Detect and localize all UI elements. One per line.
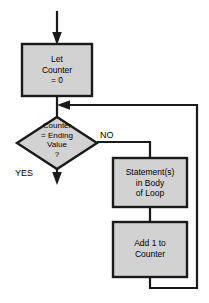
edge-test-yes [52,168,62,185]
edge-entry [52,11,62,45]
node-body-shape [113,158,187,207]
edge-label-no: NO [100,130,114,140]
node-increment-shape [113,222,187,277]
edge-label-yes: YES [15,168,33,178]
node-test-shape [17,117,97,169]
flowchart-canvas: Let Counter = 0 Counter = Ending Value ?… [0,0,209,303]
node-init-shape [22,44,92,96]
edge-test-no [97,142,150,159]
flowchart-graphics [0,0,209,303]
